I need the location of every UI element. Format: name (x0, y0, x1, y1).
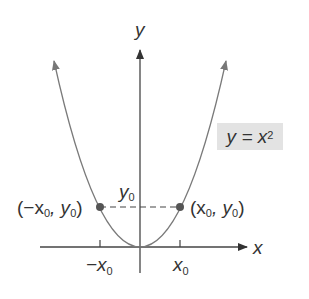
tick-label-neg-x0: −x0 (86, 254, 113, 277)
label-neg-x0-y0: (−x0, y0) (17, 197, 83, 219)
parabola-curve-right (140, 61, 226, 247)
tick-label-x0: x0 (172, 254, 189, 277)
equation-exponent: 2 (267, 129, 273, 141)
y-axis-label: y (133, 19, 146, 40)
parabola-curve (54, 61, 140, 247)
y0-label: y0 (117, 181, 135, 203)
label-x0-y0: (x0, y0) (190, 197, 244, 219)
point-neg-x0-y0 (96, 203, 104, 211)
point-x0-y0 (176, 203, 184, 211)
equation-label-box: y = x2 (217, 123, 283, 150)
x-axis-label: x (252, 237, 264, 258)
equation-text: y = x (227, 126, 268, 148)
